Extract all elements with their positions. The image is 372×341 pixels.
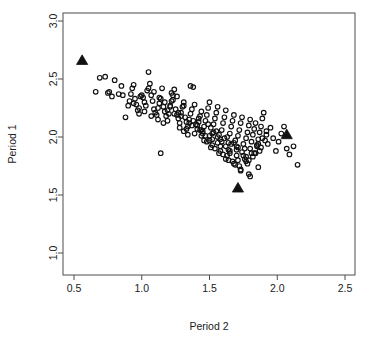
data-point [222,115,227,120]
data-point [236,158,241,163]
data-point [177,121,182,126]
data-point [206,122,211,127]
data-point [261,110,266,115]
data-point [192,102,197,107]
data-point [229,124,234,129]
data-point [161,105,166,110]
data-point [287,152,292,157]
data-point [161,121,166,126]
x-axis-ticks: 0.51.01.52.02.5 [67,275,353,294]
data-point [123,115,128,120]
data-point [158,151,163,156]
data-point [237,128,242,133]
data-point [240,115,245,120]
data-point [276,139,281,144]
data-point [252,127,257,132]
data-point [93,89,98,94]
data-point [148,81,153,86]
data-point [265,142,270,147]
data-point [284,146,289,151]
data-point [244,136,249,141]
data-point [214,110,219,115]
data-point [103,74,108,79]
data-point [129,92,134,97]
data-point [119,84,124,89]
y-tick-label: 2.5 [47,72,59,87]
data-point [133,96,138,101]
y-tick-label: 3.0 [47,14,59,29]
data-point [177,125,182,130]
data-point [112,78,117,83]
data-point [97,76,102,81]
data-point [146,70,151,75]
data-point [142,109,147,114]
data-point [207,100,212,105]
data-point [218,144,223,149]
data-point [249,139,254,144]
plot-frame [63,13,355,275]
data-point [192,131,197,136]
x-tick-label: 2.0 [270,282,285,294]
highlighted-point [77,55,88,65]
data-point [260,116,265,121]
data-point [248,146,253,151]
data-point [162,100,167,105]
data-point [157,101,162,106]
data-point [126,103,131,108]
y-tick-label: 1.0 [47,246,59,261]
y-tick-label: 2.0 [47,130,59,145]
plot-border [63,13,355,275]
data-points-observations [93,70,299,179]
data-point [152,89,157,94]
data-point [274,149,279,154]
data-point [199,109,204,114]
data-point [247,123,252,128]
data-point [232,113,237,118]
data-point [190,107,195,112]
data-point [160,86,165,91]
y-tick-label: 1.5 [47,188,59,203]
data-point [219,128,224,133]
scatter-plot-figure: 0.51.01.52.02.5 1.01.52.02.53.0 Period 2… [0,0,372,341]
y-axis-title: Period 1 [6,124,18,163]
data-point [188,112,193,117]
data-point [251,132,256,137]
data-point [245,130,250,135]
data-point [238,121,243,126]
data-point [206,106,211,111]
data-point [186,132,191,137]
data-point [221,121,226,126]
highlighted-point [281,129,292,139]
data-point [259,124,264,129]
data-point [271,136,276,141]
data-point [295,163,300,168]
data-point [228,131,233,136]
data-point [236,134,241,139]
data-point [253,121,258,126]
data-point [291,144,296,149]
data-point [257,130,262,135]
highlighted-point [232,182,243,192]
data-point [248,117,253,122]
data-point [241,142,246,147]
x-tick-label: 1.0 [134,282,149,294]
y-axis-ticks: 1.01.52.02.53.0 [47,14,63,261]
data-point [230,118,235,123]
data-point [150,99,155,104]
data-point [256,165,261,170]
data-point [223,108,228,113]
data-point [268,125,273,130]
x-axis-title: Period 2 [189,320,228,332]
data-point [282,124,287,129]
x-tick-label: 1.5 [202,282,217,294]
data-point [215,105,220,110]
data-point [110,94,115,99]
data-point [234,153,239,158]
data-point [211,122,216,127]
plot-canvas: 0.51.01.52.02.5 1.01.52.02.53.0 Period 2… [0,0,372,341]
data-point [149,114,154,119]
data-point [213,116,218,121]
data-point [204,113,209,118]
data-point [156,117,161,122]
x-tick-label: 0.5 [67,282,82,294]
